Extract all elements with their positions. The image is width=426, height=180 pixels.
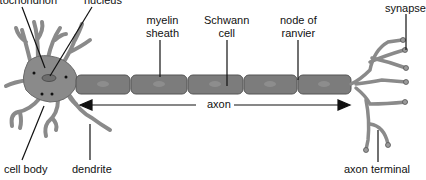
label-mitochondrion: mitochondrion: [0, 0, 57, 7]
label-dendrite: dendrite: [72, 163, 112, 176]
label-schwann-cell: Schwann cell: [204, 14, 249, 40]
label-axon: axon: [204, 98, 234, 111]
label-node-of-ranvier: node of ranvier: [280, 14, 317, 40]
label-nucleus: nucleus: [84, 0, 122, 7]
mitochondrion-dot: [51, 93, 54, 96]
label-cell-body: cell body: [4, 163, 47, 176]
mitochondrion-dot: [33, 72, 36, 75]
label-myelin-sheath: myelin sheath: [146, 14, 179, 40]
mitochondrion-dot: [41, 93, 44, 96]
mitochondrion-dot: [65, 76, 68, 79]
label-axon-terminal: axon terminal: [344, 163, 410, 176]
nucleus-shape: [42, 75, 56, 82]
label-synapse: synapse: [385, 2, 426, 15]
